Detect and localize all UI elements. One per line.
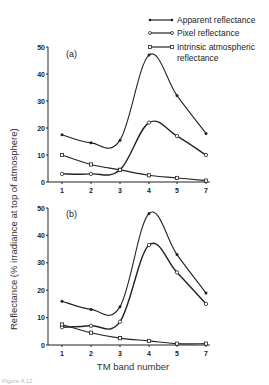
y-tick-label: 20 [37, 125, 45, 132]
series-line [62, 54, 206, 148]
panel-b: 01020304050123457(b) [37, 205, 210, 358]
y-tick-label: 30 [37, 259, 45, 266]
data-point [175, 271, 178, 274]
x-tick-label: 3 [118, 350, 122, 357]
panel-label: (a) [66, 49, 77, 59]
y-tick-label: 0 [41, 342, 45, 349]
data-point [118, 337, 121, 340]
data-point [90, 308, 93, 311]
y-tick-label: 10 [37, 314, 45, 321]
data-point [204, 302, 207, 305]
x-tick-label: 1 [60, 187, 64, 194]
x-tick-label: 1 [60, 350, 64, 357]
y-tick-label: 20 [37, 287, 45, 294]
x-tick-label: 5 [175, 350, 179, 357]
data-point [147, 174, 150, 177]
legend-label-apparent: Apparent reflectance [177, 15, 256, 25]
data-point [204, 342, 207, 345]
data-point [89, 172, 92, 175]
data-point [204, 153, 207, 156]
data-point [147, 121, 150, 124]
series-line [62, 155, 206, 181]
series-line [62, 212, 206, 315]
data-point [204, 179, 207, 182]
data-point [147, 339, 150, 342]
data-point [175, 342, 178, 345]
data-point [60, 172, 63, 175]
data-point [175, 134, 178, 137]
x-tick-label: 5 [175, 187, 179, 194]
x-tick-label: 3 [118, 187, 122, 194]
data-point [176, 94, 179, 97]
data-point [90, 141, 93, 144]
legend-item-pixel: Pixel reflectance [149, 28, 240, 38]
data-point [205, 291, 208, 294]
x-tick-label: 7 [204, 187, 208, 194]
x-tick-label: 7 [204, 350, 208, 357]
data-point [119, 139, 122, 142]
legend-item-apparent: Apparent reflectance [149, 15, 256, 25]
y-tick-label: 40 [37, 71, 45, 78]
x-tick-label: 2 [89, 187, 93, 194]
data-point [60, 153, 63, 156]
data-point [176, 253, 179, 256]
y-axis-title: Reflectance (% irradiance at top of atmo… [8, 128, 19, 330]
data-point [89, 324, 92, 327]
legend-item-intrinsic: Intrinsic atmospheric reflectance [149, 42, 256, 63]
data-point [119, 305, 122, 308]
legend-label-pixel: Pixel reflectance [177, 28, 240, 38]
x-axis-title: TM band number [97, 361, 169, 372]
legend-label-intrinsic: Intrinsic atmospheric [177, 42, 256, 52]
figure-caption: Figure 4.12 [2, 378, 33, 384]
legend: Apparent reflectance Pixel reflectance I… [149, 15, 256, 63]
data-point [61, 133, 64, 136]
series-line [62, 324, 206, 343]
data-point [148, 54, 151, 57]
y-tick-label: 30 [37, 98, 45, 105]
legend-label-intrinsic-line2: reflectance [177, 53, 219, 63]
x-tick-label: 2 [89, 350, 93, 357]
data-point [205, 132, 208, 135]
y-tick-label: 40 [37, 232, 45, 239]
x-tick-label: 4 [147, 350, 151, 357]
y-tick-label: 50 [37, 44, 45, 51]
y-tick-label: 0 [41, 179, 45, 186]
data-point [148, 212, 151, 215]
panel-label: (b) [66, 209, 77, 219]
data-point [118, 320, 121, 323]
panel-a: 01020304050123457(a) [37, 44, 210, 195]
series-line [62, 243, 206, 329]
reflectance-chart: Apparent reflectance Pixel reflectance I… [0, 0, 269, 385]
y-tick-label: 50 [37, 205, 45, 212]
x-tick-label: 4 [147, 187, 151, 194]
data-point [118, 168, 121, 171]
data-point [89, 331, 92, 334]
y-tick-label: 10 [37, 152, 45, 159]
data-point [60, 323, 63, 326]
data-point [61, 300, 64, 303]
data-point [147, 243, 150, 246]
data-point [175, 176, 178, 179]
series-line [62, 121, 206, 175]
data-point [89, 163, 92, 166]
